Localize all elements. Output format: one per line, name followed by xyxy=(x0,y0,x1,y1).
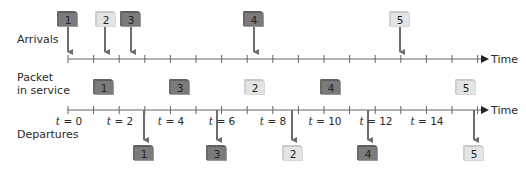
departure-packet-2: 2 xyxy=(282,145,302,160)
tick-label-t0: t = 0 xyxy=(56,115,82,127)
packet-in-service-label-line2: in service xyxy=(17,84,70,97)
departure-packet-5: 5 xyxy=(463,145,483,160)
time-axis-label-top: Time xyxy=(491,53,518,66)
time-axis-label-bottom: Time xyxy=(491,104,518,117)
arrival-packet-3: 3 xyxy=(120,11,140,26)
tick-label-t12: t = 12 xyxy=(359,115,392,127)
arrival-packet-4: 4 xyxy=(243,11,263,26)
departure-packet-3: 3 xyxy=(206,145,226,160)
service-packet-5: 5 xyxy=(455,79,475,94)
service-packet-3: 3 xyxy=(169,79,189,94)
arrivals-axis xyxy=(68,55,489,63)
tick-label-t4: t = 4 xyxy=(158,115,184,127)
tick-label-t2: t = 2 xyxy=(107,115,133,127)
arrivals-label: Arrivals xyxy=(17,33,58,46)
arrival-packet-5: 5 xyxy=(389,11,409,26)
arrival-packet-1: 1 xyxy=(57,11,77,26)
packet-in-service-label-line1: Packet xyxy=(17,71,53,84)
tick-label-t14: t = 14 xyxy=(410,115,443,127)
service-packet-2: 2 xyxy=(244,79,264,94)
departure-packet-1: 1 xyxy=(133,145,153,160)
tick-label-t10: t = 10 xyxy=(308,115,341,127)
tick-label-t8: t = 8 xyxy=(260,115,286,127)
departure-packet-4: 4 xyxy=(357,145,377,160)
service-packet-1: 1 xyxy=(93,79,113,94)
arrival-packet-2: 2 xyxy=(95,11,115,26)
departures-axis xyxy=(68,106,489,114)
service-packet-4: 4 xyxy=(320,79,340,94)
departures-label: Departures xyxy=(17,128,79,141)
tick-label-t6: t = 6 xyxy=(209,115,235,127)
